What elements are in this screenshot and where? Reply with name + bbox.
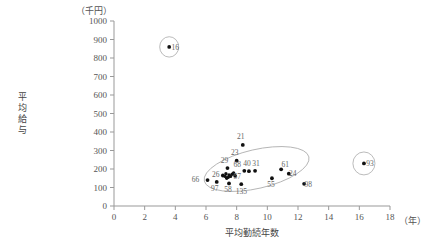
data-point[interactable] [221, 174, 225, 178]
data-point[interactable] [226, 166, 230, 170]
x-tick-label: 14 [324, 212, 334, 222]
data-point-label: 40 [243, 159, 251, 168]
data-point-label: 58 [224, 185, 232, 194]
y-tick-label: 1000 [89, 16, 108, 26]
y-tick-label: 700 [94, 72, 108, 82]
x-tick-label: 2 [142, 212, 147, 222]
x-tick-label: 6 [204, 212, 209, 222]
data-point-label: 24 [289, 169, 297, 178]
x-tick-label: 12 [294, 212, 303, 222]
data-point[interactable] [241, 143, 245, 147]
x-tick-label: 18 [386, 212, 396, 222]
y-tick-label: 100 [94, 183, 108, 193]
plot-canvas: 0246810121416180100200300400500600700800… [0, 0, 427, 239]
data-point-label: 97 [211, 184, 219, 193]
y-unit-label: （千円） [76, 6, 112, 16]
data-point-label: 31 [252, 159, 260, 168]
x-axis-title: 平均勤続年数 [225, 227, 279, 238]
y-tick-label: 300 [94, 146, 108, 156]
data-point-label: 68 [234, 160, 242, 169]
x-tick-label: 8 [234, 212, 239, 222]
data-point[interactable] [239, 182, 243, 186]
x-tick-label: 10 [263, 212, 273, 222]
data-point-label: 29 [221, 156, 229, 165]
data-point[interactable] [253, 169, 257, 173]
data-point-label: 55 [267, 180, 275, 189]
data-point-label: 61 [281, 160, 289, 169]
data-point-label: 21 [237, 132, 245, 141]
data-point-label: 66 [192, 175, 200, 184]
y-tick-label: 900 [94, 35, 108, 45]
x-tick-label: 0 [112, 212, 117, 222]
data-point-label: 135 [236, 187, 248, 196]
data-point-label: 93 [366, 159, 374, 168]
x-unit-label: （年） [399, 215, 426, 226]
data-point[interactable] [242, 169, 246, 173]
y-tick-label: 200 [94, 164, 108, 174]
data-point[interactable] [247, 169, 251, 173]
y-axis-title: 平均給与 [18, 92, 27, 135]
y-tick-label: 800 [94, 53, 108, 63]
data-point-label: 23 [231, 148, 239, 157]
y-tick-label: 500 [94, 109, 108, 119]
y-tick-label: 0 [103, 201, 108, 211]
x-tick-label: 4 [173, 212, 178, 222]
y-tick-label: 600 [94, 90, 108, 100]
data-point-label: 57 [233, 172, 241, 181]
data-point-label: 98 [304, 180, 312, 189]
x-tick-label: 16 [355, 212, 365, 222]
data-point-label: 16 [171, 43, 179, 52]
data-point-label: 26 [212, 170, 220, 179]
y-tick-label: 400 [94, 127, 108, 137]
scatter-chart: 0246810121416180100200300400500600700800… [0, 0, 427, 239]
data-point[interactable] [206, 178, 210, 182]
